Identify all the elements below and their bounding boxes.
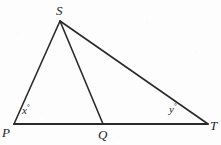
degree-symbol-y: °	[174, 102, 177, 110]
vertex-label-Q: Q	[98, 128, 107, 141]
vertex-label-S: S	[56, 4, 63, 17]
geometry-figure: S P Q T x° y°	[0, 0, 221, 145]
segment-PS	[14, 21, 60, 124]
figure-canvas	[0, 0, 221, 145]
degree-symbol-x: °	[27, 103, 30, 111]
vertex-label-P: P	[2, 126, 10, 139]
angle-label-x: x°	[22, 104, 30, 116]
vertex-label-T: T	[210, 119, 217, 132]
angle-label-y: y°	[169, 103, 177, 115]
